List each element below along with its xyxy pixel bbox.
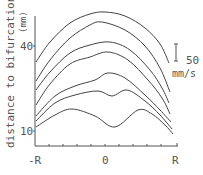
y-tick-label-10: 10 [20,125,33,138]
y-axis-unit: (mm) [18,11,28,33]
velocity-profiles [36,12,173,134]
x-tick-label-r: R [172,154,179,167]
velocity-profile-line [36,109,173,134]
chart-figure: 50 mm/s 40 10 -R 0 R distance to bifurca… [0,0,203,175]
y-axis-title: distance to bifurcation [4,0,17,148]
chart-canvas: 50 mm/s 40 10 -R 0 R distance to bifurca… [0,0,203,175]
velocity-profile-line [36,90,172,129]
scale-unit: mm/s [172,68,196,79]
y-tick-label-40: 40 [20,40,33,53]
x-tick-label-neg-r: -R [28,154,42,167]
velocity-profile-line [36,12,169,63]
scale-value: 50 [186,54,199,67]
scale-bar [174,44,178,61]
x-tick-label-zero: 0 [102,154,109,167]
